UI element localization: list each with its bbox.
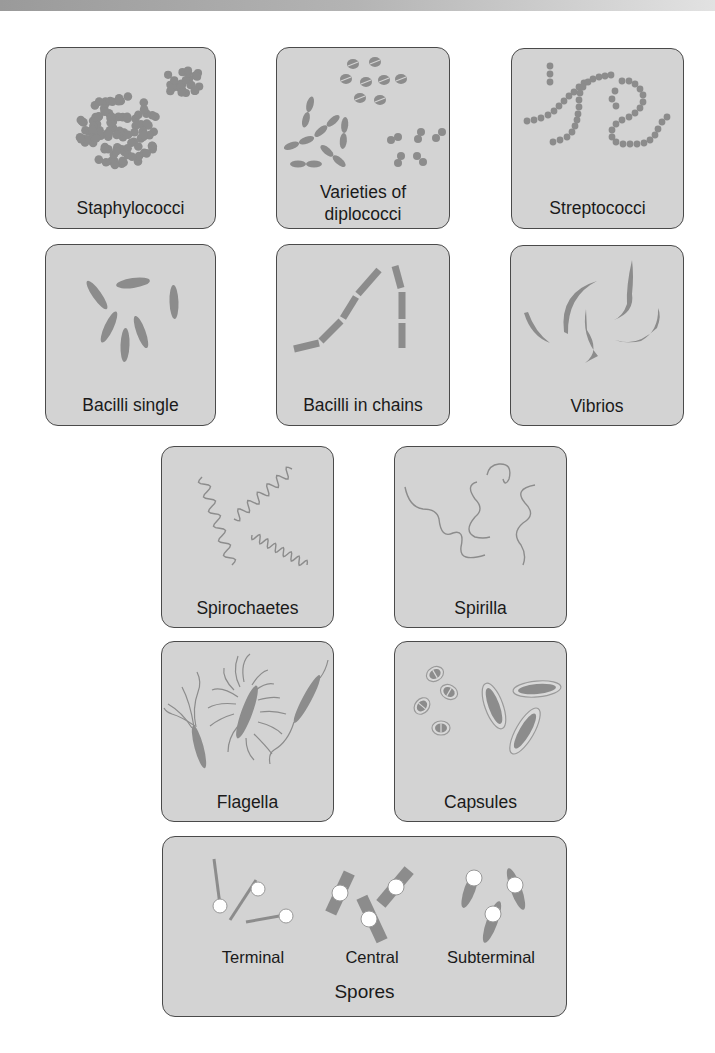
panel-bacilli-single: Bacilli single (45, 244, 216, 426)
label-streptococci: Streptococci (512, 198, 683, 219)
label-diplococci-line2: diplococci (277, 204, 449, 225)
label-spore-subterminal: Subterminal (431, 948, 551, 967)
label-spore-central: Central (327, 948, 417, 967)
label-flagella: Flagella (162, 792, 333, 813)
label-capsules: Capsules (395, 792, 566, 813)
label-spirilla: Spirilla (395, 598, 566, 619)
label-bacilli-single: Bacilli single (46, 395, 215, 416)
panel-flagella: Flagella (161, 641, 334, 822)
panel-vibrios: Vibrios (510, 245, 684, 426)
label-vibrios: Vibrios (511, 396, 683, 417)
panel-streptococci: Streptococci (511, 48, 684, 229)
panel-spores: Terminal Central Subterminal Spores (162, 836, 567, 1017)
label-diplococci-line1: Varieties of (277, 182, 449, 203)
label-bacilli-chains: Bacilli in chains (277, 395, 449, 416)
label-spirochaetes: Spirochaetes (162, 598, 333, 619)
top-gradient-band (0, 0, 715, 11)
panel-spirochaetes: Spirochaetes (161, 446, 334, 628)
label-spore-terminal: Terminal (203, 948, 303, 967)
panel-bacilli-chains: Bacilli in chains (276, 244, 450, 426)
panel-staphylococci: Staphylococci (45, 47, 216, 229)
panel-capsules: Capsules (394, 641, 567, 822)
panel-diplococci: Varieties of diplococci (276, 47, 450, 229)
label-staphylococci: Staphylococci (46, 198, 215, 219)
label-spores: Spores (163, 981, 566, 1002)
panel-spirilla: Spirilla (394, 446, 567, 628)
